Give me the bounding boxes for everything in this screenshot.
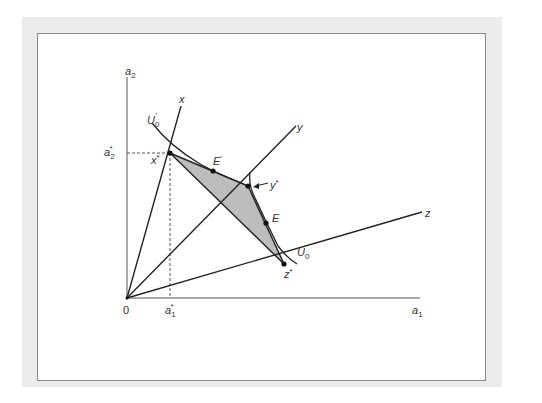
U0-prime-label: U0′ bbox=[147, 111, 160, 129]
y-star-label: y* bbox=[269, 178, 279, 191]
point-y-star bbox=[245, 183, 250, 188]
shaded-feasible-triangle bbox=[170, 153, 284, 264]
diagram-canvas: a2 a1 0 a1* a2* x y z x* y* z* E′ E U0′ … bbox=[0, 0, 542, 403]
point-x-star bbox=[167, 150, 172, 155]
E-prime-label: E′ bbox=[213, 154, 222, 167]
x-star-label: x* bbox=[150, 153, 160, 166]
U0-label: U0 bbox=[297, 246, 310, 261]
y-star-arrowhead bbox=[253, 183, 259, 189]
z-star-label: z* bbox=[283, 267, 293, 280]
a1-star-tick-label: a1* bbox=[165, 302, 176, 319]
a2-star-tick-label: a2* bbox=[104, 144, 115, 161]
ray-z-label: z bbox=[424, 207, 431, 219]
ray-z bbox=[127, 212, 422, 298]
ray-y-label: y bbox=[296, 121, 304, 133]
point-z-star bbox=[281, 261, 286, 266]
E-label: E bbox=[272, 212, 280, 224]
point-E-prime bbox=[210, 168, 215, 173]
ray-y bbox=[127, 126, 296, 298]
ray-x bbox=[127, 106, 181, 298]
a1-axis-label: a1 bbox=[412, 304, 423, 319]
origin-point bbox=[125, 296, 128, 299]
ray-x-label: x bbox=[178, 93, 185, 105]
origin-label: 0 bbox=[123, 304, 129, 316]
point-E bbox=[263, 220, 268, 225]
